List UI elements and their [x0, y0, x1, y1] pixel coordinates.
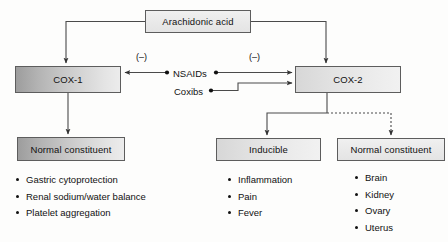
list-item: Ovary [355, 205, 394, 216]
dot-nsaids-left [165, 70, 169, 74]
node-inducible: Inducible [216, 138, 321, 161]
inhibition-symbol-cox1: (–) [136, 52, 147, 62]
node-cox2: COX-2 [295, 66, 401, 93]
edge-arachidonic-to-cox1 [66, 22, 145, 64]
node-cox1: COX-1 [15, 66, 121, 93]
edge-arachidonic-to-cox2 [251, 22, 326, 64]
list-item: Brain [355, 172, 394, 183]
edge-coxibs-to-cox2 [212, 83, 292, 91]
node-normal-constituent-cox2: Normal constituent [337, 138, 445, 161]
list-item: Fever [228, 207, 292, 218]
list-cox2-constitutive: Brain Kidney Ovary Uterus [355, 172, 394, 238]
list-item: Uterus [355, 222, 394, 233]
label-coxibs: Coxibs [174, 86, 203, 97]
label-nsaids: NSAIDs [173, 68, 207, 79]
inhibition-symbol-cox2: (–) [249, 52, 260, 62]
list-item: Inflammation [228, 174, 292, 185]
edge-cox2-to-normal-dotted [327, 113, 391, 135]
dot-coxibs [209, 88, 213, 92]
list-item: Renal sodium/water balance [16, 191, 146, 202]
list-cox1-functions: Gastric cytoprotection Renal sodium/wate… [16, 174, 146, 224]
pathway-diagram: Arachidonic acid COX-1 COX-2 Normal cons… [0, 0, 448, 242]
node-arachidonic-acid: Arachidonic acid [145, 10, 251, 33]
node-normal-constituent-cox1: Normal constituent [17, 137, 125, 161]
list-item: Kidney [355, 189, 394, 200]
list-cox2-inducible: Inflammation Pain Fever [228, 174, 292, 224]
list-item: Platelet aggregation [16, 207, 146, 218]
dot-nsaids-right [214, 70, 218, 74]
edge-cox2-to-inducible [267, 113, 327, 135]
list-item: Gastric cytoprotection [16, 174, 146, 185]
list-item: Pain [228, 191, 292, 202]
